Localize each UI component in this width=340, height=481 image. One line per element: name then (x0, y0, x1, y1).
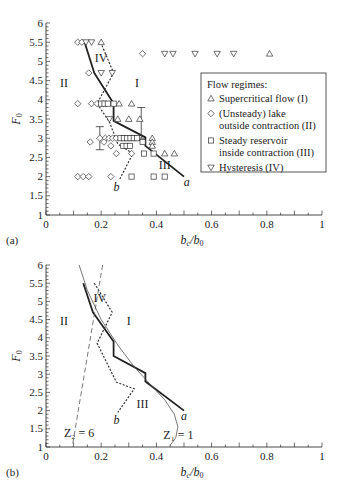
annotation-label: IV (93, 291, 106, 305)
square-marker (111, 101, 116, 106)
triangle-down-marker (192, 51, 198, 57)
y-tick-label: 1.5 (29, 189, 43, 201)
y-tick-label: 1 (38, 209, 44, 221)
x-tick-label: 0.2 (94, 218, 108, 230)
panel-b-chart: 11.522.533.544.555.5600.20.40.60.81bc/b0… (6, 259, 325, 481)
annotation-label: Z₁ = 1 (163, 428, 193, 442)
square-marker (129, 174, 134, 179)
panel-label: (a) (6, 234, 19, 247)
annotation-label: Z₂ = 6 (64, 426, 94, 440)
y-axis-title: F0 (9, 350, 24, 362)
x-tick-label: 0 (43, 218, 49, 230)
triangle-down-marker (214, 51, 220, 57)
x-tick-label: 0.8 (260, 450, 274, 462)
y-tick-label: 3 (38, 368, 44, 380)
y-tick-label: 5.5 (29, 36, 43, 48)
triangle-down-marker (88, 40, 94, 46)
triangle-up-marker (128, 100, 134, 106)
x-tick-label: 1 (319, 450, 325, 462)
legend-entry-label: Steady reservoir (219, 135, 288, 146)
square-marker (151, 174, 156, 179)
y-tick-label: 5 (38, 55, 44, 67)
y-tick-label: 2.5 (29, 151, 43, 163)
annotation-label: II (60, 314, 68, 328)
annotation-label: b (113, 413, 119, 427)
diamond-marker (139, 51, 145, 57)
y-tick-label: 3.5 (29, 113, 43, 125)
x-tick-label: 1 (319, 218, 325, 230)
square-marker (127, 143, 132, 148)
annotation-label: I (135, 76, 139, 90)
legend-entry-label: Hysteresis (IV) (219, 162, 284, 174)
y-tick-label: 6 (38, 259, 44, 271)
diamond-marker (108, 143, 114, 149)
annotation-label: a (184, 175, 190, 189)
y-tick-label: 3.5 (29, 350, 43, 362)
x-tick-label: 0.6 (205, 450, 219, 462)
x-axis-title: bc/b0 (181, 465, 204, 480)
square-marker (141, 151, 146, 156)
y-tick-label: 4 (38, 93, 44, 105)
x-tick-label: 0.4 (150, 450, 164, 462)
y-tick-label: 1.5 (29, 422, 43, 434)
diamond-marker (75, 100, 81, 106)
triangle-down-marker (109, 71, 115, 77)
figure: 11.522.533.544.555.5600.20.40.60.81bc/b0… (0, 0, 340, 481)
y-tick-label: 5 (38, 295, 44, 307)
x-tick-label: 0.4 (150, 218, 164, 230)
diamond-marker (113, 150, 119, 156)
legend: Flow regimes:Supercritical flow (I)(Unst… (201, 73, 326, 174)
triangle-down-marker (98, 71, 104, 77)
y-tick-label: 4.5 (29, 313, 43, 325)
diamond-marker (108, 173, 114, 179)
annotation-label: I (127, 314, 131, 328)
square-marker (208, 138, 213, 143)
y-tick-label: 1 (38, 441, 44, 453)
y-tick-label: 2 (38, 170, 44, 182)
legend-entry-label: outside contraction (II) (219, 120, 316, 132)
annotation-label: III (137, 397, 149, 411)
square-marker (105, 101, 110, 106)
square-marker (162, 174, 167, 179)
legend-title: Flow regimes: (207, 79, 267, 90)
x-tick-label: 0.2 (94, 450, 108, 462)
triangle-up-marker (161, 150, 167, 156)
x-tick-label: 0 (43, 450, 49, 462)
y-tick-label: 2.5 (29, 386, 43, 398)
triangle-up-marker (126, 116, 132, 122)
diamond-marker (87, 139, 93, 145)
annotation-label: II (60, 76, 68, 90)
y-tick-label: 6 (38, 17, 44, 29)
triangle-up-marker (266, 51, 272, 57)
legend-entry-label: inside contraction (III) (219, 147, 315, 159)
square-marker (134, 136, 139, 141)
diamond-marker (86, 173, 92, 179)
y-tick-label: 4 (38, 331, 44, 343)
x-tick-label: 0.6 (205, 218, 219, 230)
y-tick-label: 4.5 (29, 74, 43, 86)
annotation-label: IV (95, 51, 108, 65)
triangle-down-marker (170, 51, 176, 57)
triangle-down-marker (230, 51, 236, 57)
legend-entry-label: Supercritical flow (I) (219, 93, 308, 105)
diamond-marker (86, 70, 92, 76)
triangle-up-marker (137, 116, 143, 122)
y-axis-title: F0 (9, 113, 24, 125)
triangle-down-marker (161, 51, 167, 57)
triangle-up-marker (98, 39, 104, 45)
square-marker (151, 151, 156, 156)
annotation-label: b (113, 180, 119, 194)
panel-label: (b) (6, 466, 19, 479)
x-tick-label: 0.8 (260, 218, 274, 230)
panel-a-chart: 11.522.533.544.555.5600.20.40.60.81bc/b0… (6, 17, 326, 249)
annotation-label: a (181, 409, 187, 423)
triangle-up-marker (116, 100, 122, 106)
x-axis-title: bc/b0 (181, 233, 204, 248)
annotation-label: III (159, 158, 171, 172)
square-marker (140, 139, 145, 144)
y-tick-label: 2 (38, 404, 44, 416)
triangle-up-marker (115, 116, 121, 122)
legend-entry-label: (Unsteady) lake (219, 108, 286, 120)
triangle-up-marker (171, 150, 177, 156)
y-tick-label: 3 (38, 132, 44, 144)
